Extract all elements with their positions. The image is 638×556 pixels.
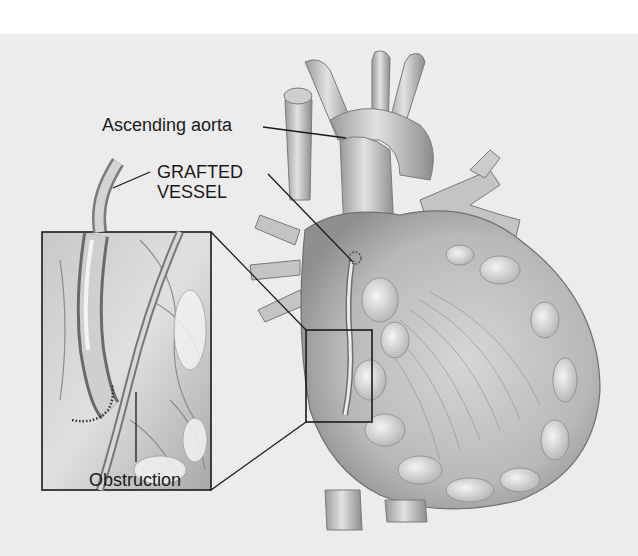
- label-ascending-aorta: Ascending aorta: [102, 116, 232, 134]
- diagram-stage: Ascending aorta GRAFTED VESSEL Obstructi…: [0, 0, 638, 556]
- heart-body: [301, 211, 600, 530]
- label-grafted-line1: GRAFTED: [157, 162, 243, 182]
- magnified-inset: [42, 232, 211, 490]
- label-grafted-line2: VESSEL: [157, 182, 243, 202]
- label-grafted-vessel: GRAFTED VESSEL: [157, 162, 243, 202]
- label-obstruction: Obstruction: [89, 471, 181, 489]
